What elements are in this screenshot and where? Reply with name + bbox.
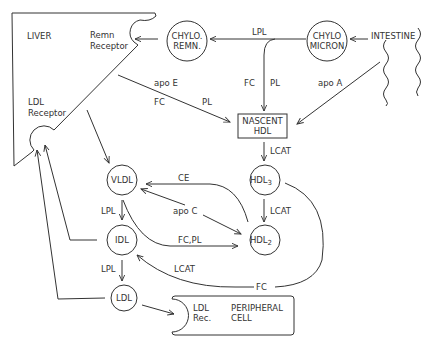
vldl-label: VLDL — [111, 175, 133, 185]
pl-chylo-label: PL — [270, 78, 280, 88]
fc-pl-label: FC,PL — [178, 235, 202, 245]
ldl-receptor-label-2: Receptor — [28, 108, 67, 118]
ldl-receptor-label-1: LDL — [28, 97, 44, 107]
chylomicron-label-2: MICRON — [310, 41, 345, 51]
arrow-apoa-to-nascent-hdl — [297, 62, 380, 124]
intestine-wall-right — [416, 28, 421, 96]
fc-chylo-label: FC — [244, 78, 255, 88]
nascent-hdl-label-1: NASCENT — [242, 116, 283, 126]
arrow-idl-to-ldl-receptor — [45, 145, 97, 240]
arrow-chylo-to-nascent-hdl — [264, 39, 275, 111]
idl-label: IDL — [115, 235, 129, 245]
pl-liver-label: PL — [202, 97, 212, 107]
fc-liver-label: FC — [154, 97, 165, 107]
remn-receptor-label-1: Remn — [90, 30, 114, 40]
arrow-liver-to-vldl — [87, 110, 109, 163]
lcat-nascent-label: LCAT — [270, 146, 292, 156]
remn-receptor-label-2: Receptor — [90, 41, 129, 51]
chylo-remnant-label-2: REMN. — [173, 41, 201, 51]
lcat-hdl3-label: LCAT — [270, 206, 292, 216]
lpl-chylo-label: LPL — [252, 27, 267, 37]
arrow-ce-hdl2-to-vldl — [146, 184, 248, 222]
apo-c-label: apo C — [173, 206, 198, 216]
lcat-idl-label: LCAT — [174, 264, 196, 274]
arrow-fc-hdl3-to-idl — [137, 183, 323, 287]
lipoprotein-diagram: LIVER Remn Receptor LDL Receptor INTESTI… — [0, 0, 433, 347]
lpl-vldl-label: LPL — [101, 206, 116, 216]
ldl-rec-label-2: Rec. — [193, 313, 211, 323]
fc-hdl3-label: FC — [256, 282, 267, 292]
ldl-label: LDL — [116, 293, 132, 303]
apo-a-label: apo A — [318, 78, 343, 88]
ldl-rec-label-1: LDL — [193, 303, 209, 313]
peripheral-cell-label-2: CELL — [231, 313, 252, 323]
intestine-wall-left — [384, 40, 389, 106]
nascent-hdl-label-2: HDL — [254, 126, 272, 136]
chylomicron-label-1: CHYLO — [313, 31, 342, 41]
ce-label: CE — [178, 173, 189, 183]
chylo-remnant-label-1: CHYLO. — [172, 31, 203, 41]
arrow-apoc-to-hdl2 — [203, 215, 241, 234]
arrow-ldl-to-peripheral — [142, 305, 174, 314]
arrow-ldl-to-ldl-receptor — [37, 150, 105, 299]
apo-e-label: apo E — [154, 78, 178, 88]
liver-label: LIVER — [27, 31, 51, 41]
peripheral-cell-label-1: PERIPHERAL — [231, 303, 283, 313]
lpl-idl-label: LPL — [101, 264, 116, 274]
intestine-label: INTESTINE — [371, 31, 415, 41]
arrow-apoc-to-vldl — [141, 189, 185, 205]
